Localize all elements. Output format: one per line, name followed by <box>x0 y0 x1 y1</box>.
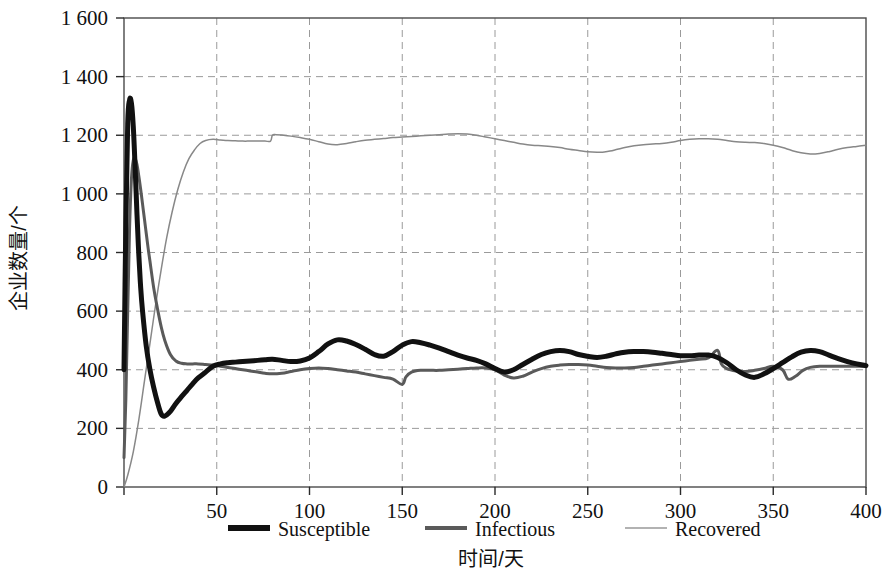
y-axis-tick-label: 1 600 <box>61 6 108 30</box>
y-axis-tick-label: 1 200 <box>61 123 108 147</box>
y-axis-tick-label: 600 <box>77 299 109 323</box>
y-axis-tick-label: 1 000 <box>61 182 108 206</box>
y-axis-tick-label: 400 <box>77 358 109 382</box>
y-axis-tick-label: 800 <box>77 241 109 265</box>
axis-ticks <box>116 18 866 495</box>
legend-label-infectious: Infectious <box>475 518 555 540</box>
x-axis-tick-label: 350 <box>758 499 790 523</box>
x-axis-title: 时间/天 <box>458 548 524 570</box>
chart-container: 02004006008001 0001 2001 4001 6005010015… <box>0 0 882 575</box>
y-axis-tick-label: 200 <box>77 416 109 440</box>
legend-label-recovered: Recovered <box>675 518 761 540</box>
x-axis-tick-label: 400 <box>850 499 882 523</box>
x-axis-tick-label: 250 <box>572 499 604 523</box>
chart-legend: SusceptibleInfectiousRecovered <box>228 518 761 541</box>
line-chart: 02004006008001 0001 2001 4001 6005010015… <box>0 0 882 575</box>
x-axis-tick-label: 50 <box>206 499 227 523</box>
x-axis-tick-label: 150 <box>387 499 419 523</box>
y-axis-tick-label: 1 400 <box>61 65 108 89</box>
y-axis-title: 企业数量/个 <box>8 205 30 311</box>
gridlines <box>124 18 866 487</box>
axis-tick-labels: 02004006008001 0001 2001 4001 6005010015… <box>61 6 882 523</box>
y-axis-tick-label: 0 <box>98 475 109 499</box>
legend-label-susceptible: Susceptible <box>278 518 370 541</box>
